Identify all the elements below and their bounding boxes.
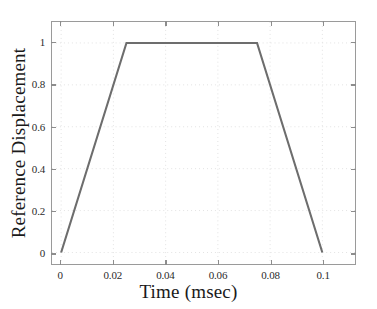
x-tick-mark [218,260,219,265]
x-tick-mark-top [271,21,272,26]
y-tick-mark-right [351,42,356,43]
x-tick-mark-top [323,21,324,26]
x-tick-mark-top [218,21,219,26]
x-tick-label: 0.02 [104,269,122,281]
y-tick-mark-right [351,169,356,170]
x-tick-mark-top [60,21,61,26]
x-tick-label: 0.1 [317,269,330,281]
x-tick-mark [113,260,114,265]
x-tick-label: 0.06 [209,269,227,281]
y-tick-mark [51,211,56,212]
plot-inner [52,22,355,264]
y-axis-label-wrapper: Reference Displacement [4,0,34,309]
x-tick-mark [60,260,61,265]
chart-figure: 00.020.040.060.080.100.20.40.60.81 Time … [0,0,377,309]
y-tick-mark [51,42,56,43]
y-tick-mark-right [351,253,356,254]
y-tick-mark-right [351,84,356,85]
x-tick-label: 0.04 [156,269,174,281]
y-tick-mark-right [351,127,356,128]
series-line-reference-displacement [52,22,355,264]
x-tick-label: 0 [58,269,63,281]
x-tick-mark [323,260,324,265]
y-tick-mark [51,253,56,254]
x-tick-mark-top [113,21,114,26]
y-tick-mark-right [351,211,356,212]
x-tick-mark [165,260,166,265]
x-axis-label: Time (msec) [0,281,377,303]
y-tick-mark [51,169,56,170]
y-axis-label: Reference Displacement [8,48,30,239]
plot-area [51,21,356,265]
y-tick-mark [51,84,56,85]
x-tick-mark [271,260,272,265]
x-tick-label: 0.08 [261,269,279,281]
y-tick-mark [51,127,56,128]
x-tick-mark-top [165,21,166,26]
